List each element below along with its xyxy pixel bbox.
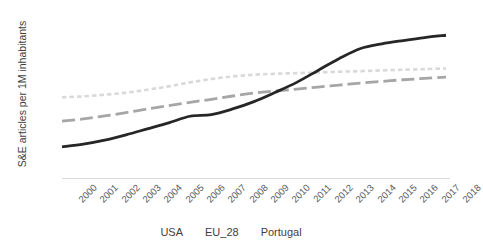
x-tick-label: 2004 bbox=[162, 182, 185, 205]
x-tick-label: 2000 bbox=[76, 182, 99, 205]
x-tick-label: 2002 bbox=[119, 182, 142, 205]
x-tick-label: 2015 bbox=[396, 182, 419, 205]
x-tick-label: 2006 bbox=[204, 182, 227, 205]
legend-label-portugal: Portugal bbox=[261, 226, 302, 238]
series-line-usa bbox=[62, 68, 446, 97]
x-tick-label: 2017 bbox=[439, 182, 462, 205]
legend-item-usa[interactable]: USA bbox=[160, 226, 183, 238]
legend-item-portugal[interactable]: Portugal bbox=[261, 226, 302, 238]
x-axis-line bbox=[62, 178, 450, 179]
legend-item-eu28[interactable]: EU_28 bbox=[205, 226, 239, 238]
x-tick-label: 2011 bbox=[311, 182, 333, 204]
series-lines bbox=[62, 12, 450, 178]
chart-legend: USA EU_28 Portugal bbox=[0, 222, 462, 242]
legend-label-eu28: EU_28 bbox=[205, 226, 239, 238]
x-tick-label: 2001 bbox=[98, 182, 121, 205]
x-tick-label: 2014 bbox=[375, 182, 398, 205]
y-axis-title: S&E articles per 1M inhabitants bbox=[16, 0, 28, 189]
x-tick-label: 2016 bbox=[418, 182, 441, 205]
x-tick-label: 2013 bbox=[354, 182, 377, 205]
x-tick-label: 2012 bbox=[332, 182, 355, 205]
series-line-eu_28 bbox=[62, 77, 446, 121]
x-tick-label: 2018 bbox=[460, 182, 483, 205]
x-tick-label: 2009 bbox=[268, 182, 291, 205]
series-line-portugal bbox=[62, 35, 446, 147]
x-tick-label: 2007 bbox=[226, 182, 249, 205]
x-tick-label: 2005 bbox=[183, 182, 206, 205]
legend-label-usa: USA bbox=[160, 226, 183, 238]
x-tick-label: 2010 bbox=[290, 182, 313, 205]
x-tick-label: 2003 bbox=[140, 182, 163, 205]
x-tick-label: 2008 bbox=[247, 182, 270, 205]
plot-area bbox=[62, 12, 450, 178]
